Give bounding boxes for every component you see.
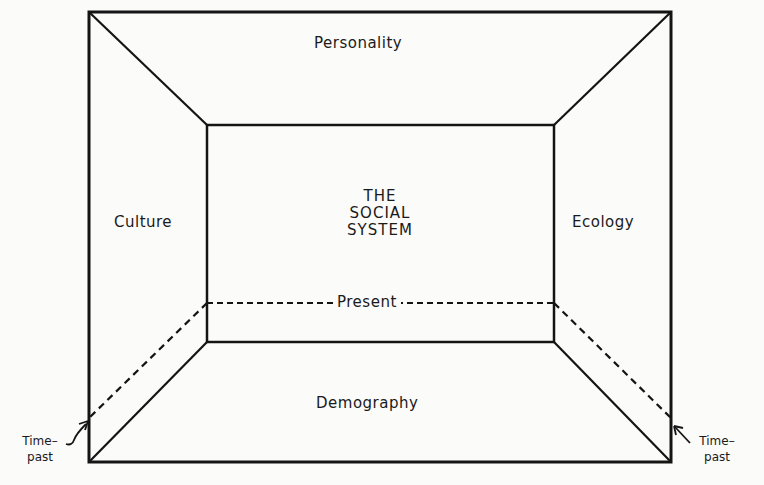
diagonal-bottom-right: [554, 342, 671, 462]
time-past-right-line2: past: [692, 449, 742, 465]
personality-label: Personality: [314, 36, 402, 51]
title-line-2: SOCIAL: [330, 205, 430, 222]
time-past-left-label: Time– past: [16, 433, 64, 465]
diagonal-top-left: [89, 12, 207, 125]
social-system-diagram: [0, 0, 764, 485]
social-system-title: THE SOCIAL SYSTEM: [330, 188, 430, 239]
diagonal-top-right: [554, 12, 671, 125]
time-past-right-label: Time– past: [692, 433, 742, 465]
time-past-left-line2: past: [16, 449, 64, 465]
demography-label: Demography: [316, 396, 418, 411]
title-line-3: SYSTEM: [330, 222, 430, 239]
arrow-icon-left: [66, 421, 88, 445]
time-past-right-line1: Time–: [692, 433, 742, 449]
present-label: Present: [333, 295, 401, 310]
title-line-1: THE: [330, 188, 430, 205]
arrow-icon-right: [674, 426, 690, 443]
ecology-label: Ecology: [572, 215, 634, 230]
time-past-left-line1: Time–: [16, 433, 64, 449]
diagonal-bottom-left: [89, 342, 207, 462]
culture-label: Culture: [114, 215, 172, 230]
